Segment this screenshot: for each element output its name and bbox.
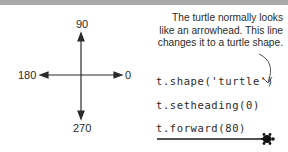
heading-180-label: 180 xyxy=(18,69,36,81)
annotation-line: The turtle normally looks xyxy=(143,12,283,25)
annotation-line: changes it to a turtle shape. xyxy=(143,37,283,50)
heading-0-label: 0 xyxy=(125,69,131,81)
code-line-forward: t.forward(80) xyxy=(156,122,246,135)
code-line-shape: t.shape('turtle') xyxy=(156,75,274,88)
code-line-setheading: t.setheading(0) xyxy=(156,99,260,112)
annotation-line: like an arrowhead. This line xyxy=(143,25,283,38)
annotation-text: The turtle normally looks like an arrowh… xyxy=(143,12,283,50)
compass-arrows-icon xyxy=(40,33,122,119)
turtle-icon xyxy=(261,133,275,145)
heading-90-label: 90 xyxy=(76,18,88,30)
heading-270-label: 270 xyxy=(73,122,91,134)
